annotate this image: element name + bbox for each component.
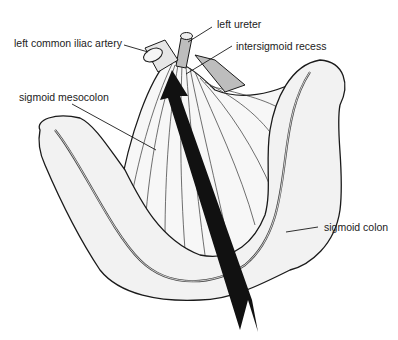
label-sigmoid-colon: sigmoid colon	[324, 222, 388, 233]
illustration	[0, 0, 398, 340]
label-left-ureter: left ureter	[217, 19, 261, 30]
left-ureter-shape	[176, 33, 193, 69]
label-sigmoid-mesocolon: sigmoid mesocolon	[19, 92, 109, 103]
label-left-common-iliac-artery: left common iliac artery	[14, 38, 122, 49]
label-intersigmoid-recess: intersigmoid recess	[236, 41, 326, 52]
anatomy-diagram: left common iliac artery left ureter int…	[0, 0, 398, 340]
